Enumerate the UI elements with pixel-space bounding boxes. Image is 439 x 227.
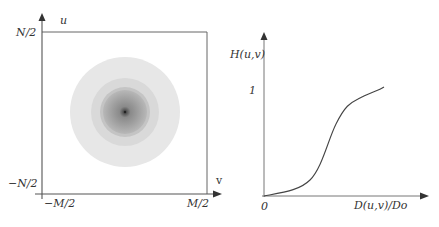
tick-top-label: N/2 [16, 27, 36, 38]
tick-right-label: M/2 [187, 198, 209, 209]
filter-disc [70, 57, 180, 167]
left-panel [35, 13, 222, 199]
x-origin-label: 0 [261, 201, 268, 212]
h-axis-arrow-icon [261, 32, 268, 40]
d-axis-arrow-icon [420, 193, 429, 200]
tick-left-label: −M/2 [44, 198, 75, 209]
right-panel [261, 32, 430, 200]
filter-diagram [0, 0, 439, 227]
h-axis-label: H(u,v) [230, 49, 265, 60]
tick-bottom-label: −N/2 [8, 178, 38, 189]
u-axis-arrow-icon [39, 13, 46, 21]
v-axis-arrow-icon [213, 191, 222, 198]
y-tick-one: 1 [249, 85, 256, 96]
u-axis [39, 13, 46, 199]
v-axis-label: v [216, 175, 222, 186]
d-axis-label: D(u,v)/Do [354, 200, 407, 211]
transfer-function-curve [264, 87, 384, 196]
u-axis-label: u [60, 15, 67, 26]
